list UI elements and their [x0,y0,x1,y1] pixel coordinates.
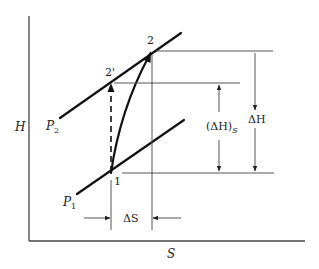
delta-s-label: ΔS [123,212,138,225]
point-2prime-label: 2' [105,66,115,79]
isobar-p1-label: P1 [62,195,76,211]
point-2-label: 2 [147,34,154,47]
x-axis-label: S [167,247,175,261]
y-axis-label: H [14,120,26,134]
hs-diagram: H S P2 P1 2 2' 1 ΔH (ΔH)S ΔS [0,0,319,269]
delta-h-label: ΔH [248,113,266,126]
delta-h-s-dimension: (ΔH)S [206,85,238,171]
delta-s-dimension: ΔS [84,212,181,225]
delta-h-s-label: (ΔH)S [206,120,238,135]
actual-compression-path [111,56,149,173]
delta-h-dimension: ΔH [248,53,266,171]
isobar-p2-line [60,33,181,118]
isobar-p2-label: P2 [45,119,59,135]
point-1-label: 1 [114,175,121,188]
isobar-p1-line [77,120,184,194]
